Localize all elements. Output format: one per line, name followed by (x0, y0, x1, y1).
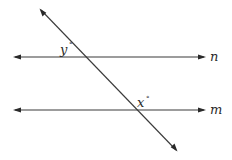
transversal-top-arrowhead-icon (40, 9, 47, 17)
line-n: n (13, 49, 218, 64)
angle-y-degree-symbol: ° (69, 41, 73, 49)
angle-y-label: y ° (59, 41, 73, 57)
transversal-bottom-arrowhead-icon (171, 144, 178, 152)
transversal (40, 9, 178, 152)
transversal-segment (41, 10, 176, 150)
line-m-right-arrowhead-icon (198, 108, 206, 113)
angle-x-label: x ° (137, 95, 150, 110)
angle-y-variable: y (59, 42, 68, 57)
line-m: m (13, 102, 222, 117)
parallel-lines-diagram: n m y ° x ° (0, 0, 232, 160)
line-m-label: m (210, 102, 222, 117)
line-n-right-arrowhead-icon (198, 55, 206, 60)
line-n-left-arrowhead-icon (13, 55, 21, 60)
angle-x-variable: x (137, 95, 145, 110)
line-n-label: n (210, 49, 218, 64)
angle-x-degree-symbol: ° (146, 95, 150, 103)
line-m-left-arrowhead-icon (13, 108, 21, 113)
